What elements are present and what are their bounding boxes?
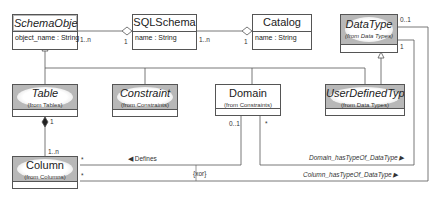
multiplicity-label: 1: [244, 38, 248, 46]
multiplicity-label: *: [81, 156, 84, 164]
multiplicity-label: 1..n: [48, 148, 59, 156]
class-name: Domain: [216, 85, 280, 101]
class-name: Table: [13, 85, 77, 101]
class-package: (from Columns): [13, 173, 77, 181]
association-column-hastype-label: Column_hasTypeOf_DataType ▶: [303, 171, 398, 179]
association-defines-label: ◀ Defines: [128, 155, 157, 163]
multiplicity-label: 1: [400, 43, 404, 51]
multiplicity-label: *: [265, 120, 268, 128]
class-name: Catalog: [253, 15, 311, 30]
class-catalog[interactable]: Catalog name : String: [252, 14, 312, 50]
class-name: Column: [13, 157, 77, 173]
class-name: SchemaObject: [14, 16, 76, 30]
class-table[interactable]: Table (from Tables): [12, 84, 78, 117]
multiplicity-label: 1: [50, 118, 54, 126]
class-name: DataType: [341, 15, 397, 32]
class-package: (from Data Types): [326, 101, 404, 109]
class-package: (from Constraints): [216, 101, 280, 109]
xor-constraint-label: {xor}: [193, 170, 206, 178]
uml-class-diagram: SchemaObject object_name : String SQLSch…: [0, 0, 438, 202]
class-name: UserDefinedType: [326, 85, 404, 101]
class-schema-object[interactable]: SchemaObject object_name : String: [12, 14, 78, 50]
multiplicity-label: 0..1: [400, 16, 411, 24]
multiplicity-label: 1..n: [80, 36, 91, 44]
class-data-type[interactable]: DataType (from Data Types): [340, 14, 398, 53]
association-domain-hastype-label: Domain_hasTypeOf_DataType ▶: [309, 154, 404, 162]
multiplicity-label: 1: [124, 38, 128, 46]
multiplicity-label: 1..n: [199, 36, 210, 44]
class-name: SQLSchema: [133, 15, 196, 30]
class-package: (from Constraints): [113, 101, 177, 109]
class-column[interactable]: Column (from Columns): [12, 156, 78, 189]
class-package: (from Data Types): [341, 32, 397, 40]
class-attribute: object_name : String: [13, 32, 77, 43]
class-attribute: name : String: [253, 32, 311, 43]
class-constraint[interactable]: Constraint (from Constraints): [112, 84, 178, 117]
class-user-defined-type[interactable]: UserDefinedType (from Data Types): [325, 84, 405, 116]
class-package: (from Tables): [13, 101, 77, 109]
multiplicity-label: *: [81, 172, 84, 180]
class-sql-schema[interactable]: SQLSchema name : String: [132, 14, 197, 50]
class-attribute: name : String: [133, 32, 196, 43]
class-domain[interactable]: Domain (from Constraints): [215, 84, 281, 116]
multiplicity-label: 0..1: [229, 120, 240, 128]
class-name: Constraint: [113, 85, 177, 101]
